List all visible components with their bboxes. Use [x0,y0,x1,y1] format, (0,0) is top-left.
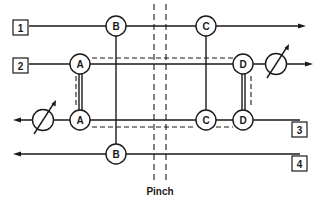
exchanger-label: D [239,115,246,126]
exchanger-label: C [202,115,209,126]
stream-4: 4 [13,152,307,172]
exchanger-label: D [239,59,246,70]
pinch-label: Pinch [146,186,173,197]
utility-stream-3[interactable] [33,100,57,134]
utility-stream-2[interactable] [266,44,290,78]
exchanger-connections [79,36,245,144]
stream-3-label: 3 [297,125,303,136]
stream-4-label: 4 [297,159,303,170]
arrow-right-icon [305,62,313,67]
heat-exchanger-network-diagram: 1 2 3 4 B C [0,0,319,201]
exchanger-loop-dashed [76,58,251,127]
stream-1-label: 1 [18,23,24,34]
exchanger-d-top[interactable]: D [233,54,253,74]
exchanger-b-bottom[interactable]: B [106,144,126,164]
exchanger-a-top[interactable]: A [70,54,90,74]
stream-2-label: 2 [18,61,24,72]
exchanger-b-top[interactable]: B [106,16,126,36]
exchanger-a-bottom[interactable]: A [70,110,90,130]
exchanger-label: B [112,149,119,160]
arrow-right-icon [298,24,306,29]
exchanger-c-top[interactable]: C [196,16,216,36]
arrow-left-icon [13,152,21,157]
exchanger-d-bottom[interactable]: D [233,110,253,130]
exchanger-label: B [112,21,119,32]
arrow-left-icon [13,118,21,123]
exchanger-c-bottom[interactable]: C [196,110,216,130]
exchanger-label: A [76,115,83,126]
stream-1: 1 [13,20,306,35]
exchanger-label: A [76,59,83,70]
exchanger-label: C [202,21,209,32]
